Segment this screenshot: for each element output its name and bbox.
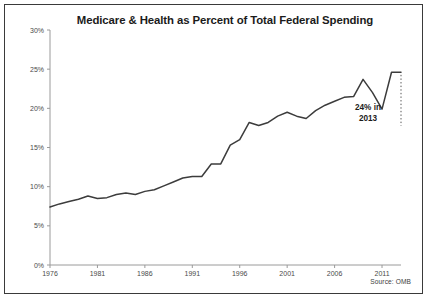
y-tick-label: 30%	[30, 27, 44, 34]
y-tick-label: 10%	[30, 183, 44, 190]
x-tick-label: 1986	[137, 270, 153, 277]
y-tick-label: 25%	[30, 66, 44, 73]
y-tick-label: 0%	[34, 262, 44, 269]
chart-figure: Medicare & Health as Percent of Total Fe…	[0, 0, 428, 299]
annotation-line-1: 24% in	[337, 103, 399, 114]
x-tick-label: 2006	[327, 270, 343, 277]
annotation-line-2: 2013	[337, 114, 399, 125]
data-line	[50, 72, 401, 207]
x-tick-label: 1991	[185, 270, 201, 277]
plot-canvas: 0%5%10%15%20%25%30%197619811986199119962…	[0, 0, 428, 299]
y-tick-label: 15%	[30, 144, 44, 151]
data-series-group	[50, 72, 401, 207]
x-tick-label: 1976	[42, 270, 58, 277]
annotation-callout: 24% in 2013	[337, 103, 399, 124]
y-tick-label: 5%	[34, 222, 44, 229]
x-tick-label: 2001	[279, 270, 295, 277]
axes-group: 0%5%10%15%20%25%30%197619811986199119962…	[30, 27, 401, 277]
x-tick-label: 1996	[232, 270, 248, 277]
x-tick-label: 2011	[374, 270, 389, 277]
y-tick-label: 20%	[30, 105, 44, 112]
source-note: Source: OMB	[370, 278, 411, 285]
x-tick-label: 1981	[90, 270, 106, 277]
